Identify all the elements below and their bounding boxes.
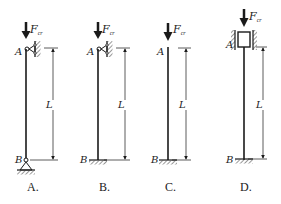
- fixed-support-icon: [235, 159, 253, 164]
- caption-b: B.: [99, 180, 110, 194]
- point-b-label: B: [225, 154, 233, 165]
- fixed-support-icon: [89, 160, 107, 165]
- force-label: Fcr: [29, 23, 43, 36]
- force-label: Fcr: [172, 23, 186, 36]
- length-label: L: [255, 99, 263, 110]
- force-label: Fcr: [248, 10, 262, 23]
- length-dimension: [104, 48, 130, 160]
- pin-support-top-icon: [97, 41, 113, 57]
- fixed-support-icon: [159, 160, 177, 165]
- panel-b: Fcr A L B B.: [79, 22, 130, 194]
- panel-c: Fcr A L B C.: [150, 23, 191, 194]
- point-b-label: B: [150, 154, 158, 165]
- caption-c: C.: [165, 180, 176, 194]
- length-label: L: [117, 99, 125, 110]
- pin-support-top-icon: [25, 41, 41, 57]
- caption-d: D.: [240, 180, 252, 194]
- point-b-label: B: [79, 154, 87, 165]
- load-arrow-icon: [164, 23, 173, 41]
- length-label: L: [45, 99, 53, 110]
- caption-a: A.: [27, 180, 39, 194]
- load-arrow-icon: [240, 9, 249, 27]
- length-dimension: [30, 48, 58, 160]
- panel-d: Fcr A L B D.: [225, 9, 267, 194]
- buckling-diagram: Fcr A L B A.: [0, 0, 281, 204]
- point-a-label: A: [14, 46, 22, 57]
- point-a-label: A: [86, 46, 94, 57]
- point-b-label: B: [14, 154, 22, 165]
- panel-a: Fcr A L B A.: [14, 22, 58, 194]
- force-label: Fcr: [101, 23, 115, 36]
- point-a-label: A: [156, 46, 164, 57]
- length-label: L: [178, 99, 186, 110]
